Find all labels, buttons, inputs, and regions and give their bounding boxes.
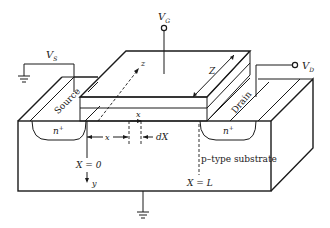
drain-region: Drain n+: [200, 78, 300, 140]
drain-terminal-node: [292, 62, 297, 67]
mosfet-diagram: Source n+ Drain n+ VG: [0, 0, 330, 228]
width-label: Z: [208, 66, 216, 76]
x-distance-label: x: [105, 133, 110, 142]
source-terminal: VS: [18, 49, 98, 92]
source-voltage-label: VS: [46, 49, 57, 62]
source-ground-icon: [18, 76, 30, 82]
substrate-left-top-edge: [18, 77, 62, 121]
gate-front-face: [80, 97, 207, 121]
z-axis-line: [98, 71, 137, 121]
x-direction-label: x: [136, 110, 141, 119]
width-arrow-front: [193, 92, 197, 97]
substrate-ground-icon: [137, 212, 149, 218]
substrate-ground: [137, 191, 149, 218]
z-axis-label: z: [140, 59, 146, 68]
drain-voltage-label: VD: [302, 60, 314, 73]
drain-doping-label: n+: [223, 124, 234, 136]
x0-label: X = 0: [75, 160, 102, 170]
substrate-label: p–type substrate: [201, 154, 277, 164]
z-axis-arrowhead: [134, 68, 139, 74]
xl-label: X = L: [186, 178, 213, 188]
substrate-right-face: [271, 79, 313, 191]
source-lead: [24, 64, 74, 92]
source-doping-label: n+: [53, 124, 64, 136]
source-label: Source: [52, 86, 82, 116]
gate-stack: [80, 51, 250, 121]
y-axis-label: y: [91, 179, 97, 188]
gate-terminal: VG: [158, 11, 170, 74]
drain-stripe-right: [258, 79, 300, 121]
width-arrow-back: [230, 55, 234, 60]
gate-terminal-node: [161, 25, 166, 30]
dx-label: dX: [156, 132, 169, 142]
y-axis-arrowhead: [85, 178, 89, 183]
gate-voltage-label: VG: [158, 11, 170, 24]
